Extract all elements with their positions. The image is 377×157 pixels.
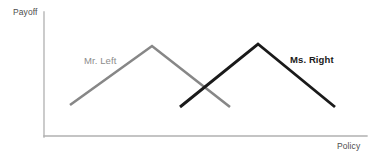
payoff-policy-chart: Payoff Policy Mr. Left Ms. Right	[0, 0, 377, 157]
series-label-ms-right: Ms. Right	[290, 55, 334, 65]
y-axis-label: Payoff	[13, 8, 38, 17]
series-label-mr-left: Mr. Left	[84, 56, 116, 66]
x-axis-label: Policy	[337, 142, 360, 151]
chart-plot-area	[0, 0, 377, 157]
